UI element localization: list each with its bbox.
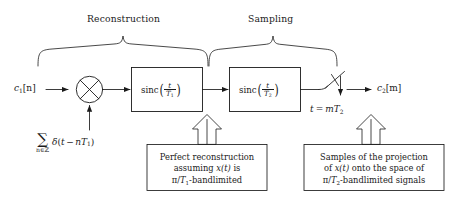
caption-right-line2: of x(t) onto the space of [304, 163, 444, 174]
hollow-arrow-left [193, 115, 222, 145]
block-sinc1-function: sinc [141, 86, 159, 96]
brace-label-reconstruction: Reconstruction [87, 14, 160, 24]
sigma-glyph: ∑ [37, 133, 48, 147]
input-signal-index: [n] [23, 83, 36, 93]
hollow-arrow-right [357, 115, 386, 145]
sampler-label-m: m [325, 104, 334, 114]
caption-right-line3-post: -bandlimited signals [340, 175, 425, 185]
caption-right-line2-math: x(t) [335, 163, 350, 173]
brace-reconstruction [38, 36, 208, 66]
sampler-label-T-sub: 2 [340, 108, 344, 115]
brace-sampling [209, 36, 337, 66]
block-sinc1-paren-open: ( [159, 83, 163, 99]
caption-left-line2: assuming x(t) is [147, 163, 267, 174]
sampler-switch-label: t=mT2 [310, 104, 344, 115]
caption-left-line2-math: x(t) [216, 163, 231, 173]
block-sinc1-denominator: T1 [164, 89, 176, 99]
caption-right-line2-post: onto the space of [349, 163, 424, 173]
block-sinc1-fraction: tT1 [164, 82, 176, 99]
impulse-train-label: ∑ n∈ℤ δ(t−nT1) [36, 132, 94, 153]
output-signal-label: c2[m] [377, 83, 401, 94]
block-sinc2-paren-open: ( [257, 83, 261, 99]
caption-left-line1: Perfect reconstruction [147, 152, 267, 163]
input-signal-label: c1[n] [14, 83, 36, 94]
block-sinc1-numerator: t [164, 82, 176, 89]
block-sinc1-denominator-sub: 1 [171, 93, 174, 98]
caption-left-line3: π/T1-bandlimited [147, 175, 267, 187]
brace-label-sampling: Sampling [248, 14, 293, 24]
caption-right-line1: Samples of the projection [304, 152, 444, 163]
block-sinc2-function: sinc [239, 86, 257, 96]
block-sinc2-fraction: tT2 [262, 82, 274, 99]
caption-perfect-reconstruction: Perfect reconstruction assuming x(t) is … [147, 152, 267, 187]
caption-left-line2-post: is [231, 163, 241, 173]
block-sinc2-paren-close: ) [274, 83, 278, 99]
sampler-label-equals: = [314, 104, 326, 114]
caption-right-line3: π/T2-bandlimited signals [304, 175, 444, 187]
sigma-subscript: n∈ℤ [36, 147, 49, 153]
summation-symbol: ∑ n∈ℤ [36, 133, 49, 154]
block-sinc2-label: sinc(tT2) [239, 82, 279, 99]
sampler-switch-symbol [319, 72, 345, 96]
block-diagram: Reconstruction Sampling c1[n] c2[m] sinc… [0, 0, 468, 207]
caption-right-line2-pre: of [324, 163, 335, 173]
caption-samples-projection: Samples of the projection of x(t) onto t… [304, 152, 444, 187]
block-sinc2-numerator: t [262, 82, 274, 89]
caption-left-line3-post: -bandlimited [189, 175, 242, 185]
block-sinc2-denominator-sub: 2 [269, 93, 272, 98]
delta-paren-close: ) [91, 137, 95, 147]
delta-minus: − [65, 137, 76, 147]
block-sinc1-paren-close: ) [176, 83, 180, 99]
output-signal-index: [m] [386, 83, 402, 93]
caption-left-line2-pre: assuming [174, 163, 217, 173]
block-sinc1-label: sinc(tT1) [141, 82, 181, 99]
multiplier-symbol [76, 76, 102, 102]
block-sinc2-denominator: T2 [262, 89, 274, 99]
